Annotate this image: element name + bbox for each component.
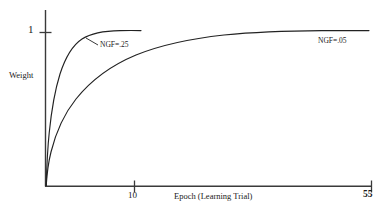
series-label-ngf-005: NGF=.05 xyxy=(318,37,347,45)
curve-ngf-025 xyxy=(46,31,141,186)
curve-ngf-005 xyxy=(46,31,369,186)
learning-curve-chart: 1 Weight 10 Epoch (Learning Trial) 55 NG… xyxy=(0,0,389,214)
y-axis-title: Weight xyxy=(9,71,33,80)
x-axis-tick-label-10: 10 xyxy=(128,191,137,200)
leader-line-fast xyxy=(86,38,98,45)
series-label-ngf-025: NGF=.25 xyxy=(100,41,129,49)
y-axis-tick-label-1: 1 xyxy=(28,24,34,35)
chart-canvas xyxy=(0,0,389,214)
x-axis-tick-label-55: 55 xyxy=(363,190,373,200)
x-axis-title: Epoch (Learning Trial) xyxy=(174,192,252,201)
